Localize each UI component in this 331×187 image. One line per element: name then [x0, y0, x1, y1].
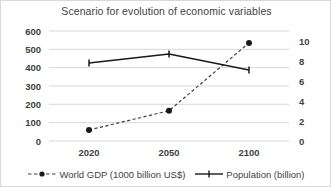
data-point-0-1 — [166, 108, 172, 114]
left-y-tick-600: 600 — [25, 26, 41, 37]
right-y-tick-0: 0 — [299, 136, 304, 147]
left-y-tick-0: 0 — [36, 136, 41, 147]
plot-svg — [49, 31, 289, 141]
x-tick-2020: 2020 — [78, 147, 99, 158]
right-y-tick-4: 4 — [299, 96, 304, 107]
chart-title: Scenario for evolution of economic varia… — [1, 5, 331, 17]
left-y-axis-tick-labels: 6005004003002001000 — [1, 31, 45, 141]
left-y-tick-300: 300 — [25, 81, 41, 92]
legend-label-world-gdp: World GDP (1000 billion US$) — [59, 169, 185, 180]
legend-item-population[interactable]: Population (billion) — [195, 169, 304, 180]
chart-container: Scenario for evolution of economic varia… — [0, 0, 331, 187]
x-tick-2050: 2050 — [158, 147, 179, 158]
right-y-axis-tick-labels: 1086420 — [293, 31, 329, 141]
legend-label-population: Population (billion) — [226, 169, 304, 180]
chart-legend: World GDP (1000 billion US$) Population … — [1, 165, 331, 183]
right-y-tick-10: 10 — [299, 36, 310, 47]
left-y-tick-400: 400 — [25, 62, 41, 73]
right-y-tick-6: 6 — [299, 76, 304, 87]
data-point-0-2 — [246, 40, 252, 46]
x-axis-tick-labels: 202020502100 — [49, 147, 289, 161]
right-y-tick-2: 2 — [299, 116, 304, 127]
x-tick-2100: 2100 — [238, 147, 259, 158]
dashed-line-circle-marker-icon — [28, 169, 56, 179]
left-y-tick-100: 100 — [25, 117, 41, 128]
solid-line-tick-marker-icon — [195, 169, 223, 179]
right-y-tick-8: 8 — [299, 56, 304, 67]
left-y-tick-500: 500 — [25, 44, 41, 55]
data-point-0-0 — [86, 127, 92, 133]
left-y-tick-200: 200 — [25, 99, 41, 110]
plot-area — [49, 31, 289, 141]
legend-item-world-gdp[interactable]: World GDP (1000 billion US$) — [28, 169, 185, 180]
